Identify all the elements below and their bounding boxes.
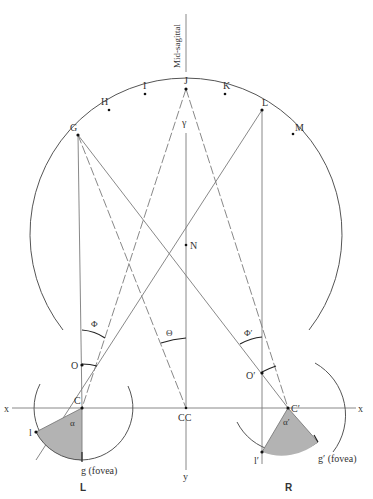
point-L [260, 108, 263, 111]
label-H: H [101, 96, 108, 107]
label-L: L [262, 97, 268, 108]
point-l-prime [260, 450, 263, 453]
label-O-prime: O′ [246, 370, 255, 381]
label-right-eye: R [285, 482, 293, 493]
label-G: G [70, 122, 77, 133]
phi-prime-arc [240, 337, 262, 344]
label-l: l [29, 427, 32, 438]
right-eye-arc-upper [315, 363, 346, 452]
label-left-eye: L [80, 482, 86, 493]
point-M [292, 133, 295, 136]
label-CC: CC [178, 412, 192, 423]
label-g-fovea: g (fovea) [81, 465, 117, 477]
point-C [80, 406, 83, 409]
point-N [185, 244, 188, 247]
line-G-CC [78, 135, 186, 408]
label-O: O [71, 360, 78, 371]
point-O [80, 363, 83, 366]
o-prime-arc [262, 366, 276, 372]
label-C: C [74, 395, 81, 406]
line-G-Cprime [78, 135, 288, 408]
point-I [144, 93, 147, 96]
line-L-l [36, 110, 262, 460]
label-C-prime: C′ [291, 403, 300, 414]
label-g-prime-fovea: g′ (fovea) [318, 453, 357, 465]
point-CC [185, 407, 188, 410]
point-C-prime [286, 406, 289, 409]
line-J-Cprime [186, 89, 288, 408]
label-y: y [183, 471, 188, 482]
label-J: J [184, 75, 188, 86]
label-alpha: α [70, 418, 75, 428]
label-phi-prime: Φ′ [244, 328, 253, 338]
point-K [224, 93, 227, 96]
label-x-left: x [4, 403, 9, 414]
mid-sagittal-label: Mid-sagittal [172, 24, 182, 68]
label-phi: Φ [91, 319, 98, 329]
point-G [76, 133, 79, 136]
label-K: K [223, 80, 231, 91]
label-l-prime: l′ [254, 455, 259, 466]
label-N: N [190, 240, 197, 251]
label-alpha-prime: α′ [283, 417, 290, 427]
left-eye-arc-right [82, 386, 133, 460]
left-retina-sector [36, 408, 82, 460]
line-J-C [82, 89, 186, 408]
point-O-prime [260, 371, 263, 374]
phi-arc [82, 330, 105, 338]
label-theta: Θ [166, 328, 173, 338]
point-J [184, 87, 187, 90]
label-I: I [143, 80, 146, 91]
o-arc [82, 364, 97, 366]
theta-arc [161, 338, 186, 343]
line-G-C [78, 135, 82, 408]
label-x-right: x [358, 403, 363, 414]
label-M: M [295, 122, 304, 133]
point-H [108, 109, 111, 112]
point-l [34, 430, 37, 433]
diagram-canvas: Mid-sagittal G [0, 0, 373, 499]
label-gamma: γ [181, 117, 187, 128]
